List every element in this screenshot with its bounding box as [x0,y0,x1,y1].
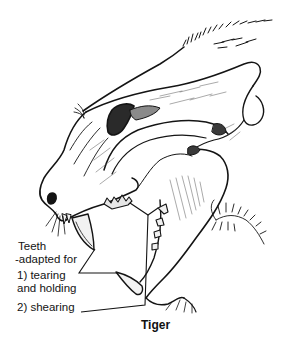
leader-tearing [79,249,117,273]
palate [136,154,192,190]
caption-tiger: Tiger [141,318,170,332]
muzzle [40,112,86,221]
label-holding: and holding [17,282,76,295]
tiger-skull-diagram: Teeth -adapted for 1) tearing and holdin… [0,0,298,342]
label-shearing: 2) shearing [17,301,75,314]
skull-top [86,62,260,112]
upper-carnassial [104,195,132,209]
leader-shearing-fork [130,203,158,215]
label-tearing: 1) tearing [17,269,66,282]
label-adapted-for: -adapted for [15,253,77,266]
fur-neck [211,200,266,244]
label-teeth: Teeth [18,240,46,253]
fur-top [183,20,272,48]
eye-socket [107,104,134,135]
head-outline [83,47,184,111]
leader-lines [79,203,158,312]
lower-canine [116,272,143,295]
